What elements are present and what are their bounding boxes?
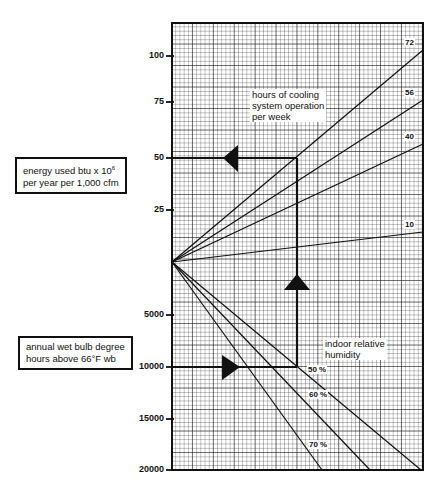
energy-axis-label: energy used btu x 106 per year per 1,000…: [15, 157, 127, 194]
axis-tick-label: 15000: [114, 413, 164, 423]
axis-tick-label: 10000: [114, 361, 164, 371]
axis-tick-label: 5000: [114, 309, 164, 319]
rh-note-line1: indoor relative: [325, 338, 385, 349]
hours-note-line3: per week: [252, 111, 324, 122]
energy-label-line2: per year per 1,000 cfm: [23, 177, 119, 189]
axis-tick-label: 20000: [114, 464, 164, 474]
axis-tick-label: 100: [114, 50, 164, 60]
humidity-series-label: 50 %: [307, 365, 327, 374]
axis-tick-label: 50: [114, 152, 164, 162]
axis-tick-label: 25: [114, 204, 164, 214]
hours-series-label: 10: [404, 220, 415, 229]
rh-note-line2: humidity: [325, 349, 385, 360]
humidity-legend-title: indoor relative humidity: [323, 338, 387, 360]
hours-note-line2: system operation: [252, 100, 324, 111]
energy-label-exponent: 6: [112, 165, 115, 171]
hours-note-line1: hours of cooling: [252, 89, 324, 100]
hours-legend-title: hours of cooling system operation per we…: [250, 89, 326, 122]
hours-series-label: 56: [404, 88, 415, 97]
axis-tick-label: 75: [114, 96, 164, 106]
hours-series-label: 72: [404, 38, 415, 47]
wb-label-line1: annual wet bulb degree: [26, 341, 125, 353]
nomograph-chart: [0, 0, 439, 485]
wb-label-line2: hours above 66°F wb: [26, 353, 125, 365]
hours-series-label: 40: [404, 132, 415, 141]
energy-label-line1: energy used btu x 10: [23, 165, 112, 176]
humidity-series-label: 70 %: [308, 440, 328, 449]
humidity-series-label: 60 %: [308, 390, 328, 399]
